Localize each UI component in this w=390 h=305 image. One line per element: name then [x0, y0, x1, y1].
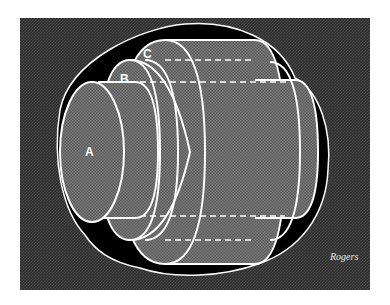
nested-cylinders-diagram: A B C Rogers [0, 0, 390, 305]
label-c: C [143, 47, 152, 61]
cylinder-a [60, 82, 158, 222]
label-a: A [85, 145, 94, 159]
artist-signature: Rogers [329, 251, 358, 262]
label-b: B [120, 72, 129, 86]
